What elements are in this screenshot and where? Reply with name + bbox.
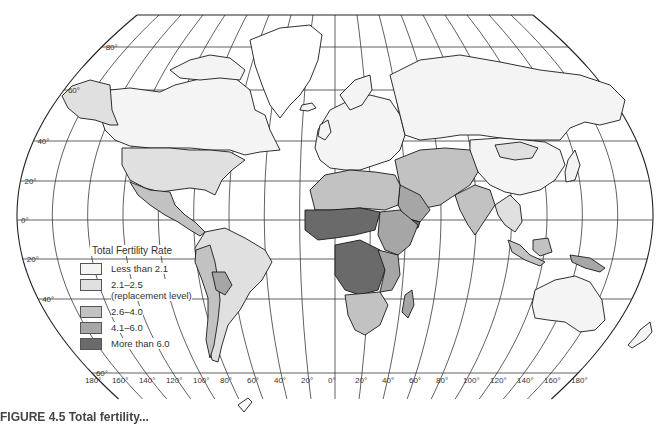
southeast-asia <box>495 195 522 232</box>
latitude-label: 80° <box>106 43 118 52</box>
longitude-label: 60° <box>409 376 421 385</box>
longitude-label: 40° <box>382 376 394 385</box>
latitude-label: 60° <box>68 86 80 95</box>
legend-title: Total Fertility Rate <box>90 245 174 256</box>
longitude-label: 40° <box>274 376 286 385</box>
latitude-label: 20° <box>24 177 36 186</box>
longitude-label: 120° <box>166 376 183 385</box>
longitude-label: 140° <box>517 376 534 385</box>
longitude-label: 0° <box>328 376 336 385</box>
legend-item-2-6-to-4-0: 2.6–4.0 <box>80 306 143 318</box>
legend-item-2-1-to-2-5: 2.1–2.5(replacement level) <box>80 279 192 301</box>
latitude-label: 40° <box>42 295 54 304</box>
legend-label: 2.6–4.0 <box>111 306 143 317</box>
antarctic-peninsula <box>238 398 252 412</box>
canada <box>100 75 280 155</box>
longitude-label: 100° <box>193 376 210 385</box>
legend-item-more-than-6-0: More than 6.0 <box>80 338 170 350</box>
legend-swatch <box>80 322 102 334</box>
longitude-label: 60° <box>247 376 259 385</box>
russia <box>390 55 625 140</box>
figure-caption: FIGURE 4.5 Total fertility... <box>0 410 149 424</box>
longitude-label: 80° <box>220 376 232 385</box>
longitude-label: 180° <box>571 376 588 385</box>
australia <box>532 276 605 332</box>
latitude-label: 40° <box>37 137 49 146</box>
arctic-islands <box>170 55 245 80</box>
latitude-label: 20° <box>27 255 39 264</box>
legend-label: Less than 2.1 <box>111 263 168 274</box>
madagascar <box>402 290 414 318</box>
new-zealand <box>628 322 652 348</box>
southern-africa <box>345 292 388 335</box>
iceland <box>300 103 316 111</box>
legend-swatch <box>80 338 102 350</box>
legend-swatch <box>80 279 102 291</box>
longitude-labels: 180°160°140°120°100°80°60°40°20°0°20°40°… <box>85 376 588 385</box>
japan <box>565 150 580 182</box>
longitude-label: 20° <box>301 376 313 385</box>
longitude-label: 20° <box>355 376 367 385</box>
legend-swatch <box>80 263 102 275</box>
legend-label: 4.1–6.0 <box>111 322 143 333</box>
legend-item-less-than-2-1: Less than 2.1 <box>80 263 168 275</box>
legend-label: 2.1–2.5(replacement level) <box>111 279 192 301</box>
longitude-label: 80° <box>436 376 448 385</box>
sahel <box>305 208 380 240</box>
longitude-label: 180° <box>85 376 102 385</box>
latitude-label: 0° <box>21 216 29 225</box>
longitude-label: 120° <box>490 376 507 385</box>
land-masses <box>62 25 652 412</box>
central-africa <box>335 240 385 295</box>
longitude-label: 100° <box>463 376 480 385</box>
legend-item-4-1-to-6-0: 4.1–6.0 <box>80 322 143 334</box>
borneo <box>533 238 552 256</box>
north-africa <box>310 170 400 210</box>
longitude-label: 140° <box>139 376 156 385</box>
legend-swatch <box>80 306 102 318</box>
longitude-label: 160° <box>544 376 561 385</box>
longitude-label: 160° <box>112 376 129 385</box>
legend-label: More than 6.0 <box>111 338 170 349</box>
india <box>455 185 495 235</box>
